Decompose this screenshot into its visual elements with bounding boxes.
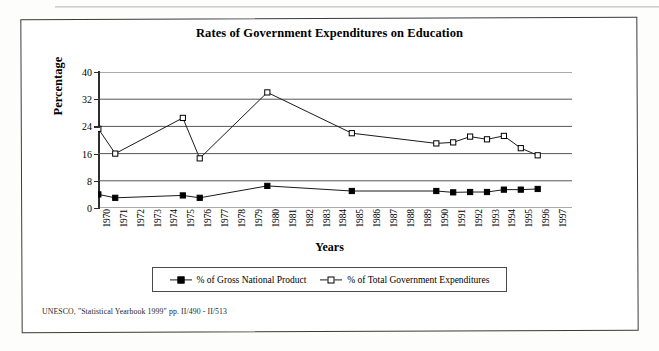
data-point-marker	[451, 190, 456, 195]
data-point-marker	[501, 133, 506, 138]
x-tick-label: 1997	[558, 209, 568, 228]
x-tick-label: 1989	[423, 209, 433, 228]
y-tick-label: 8	[70, 175, 92, 186]
x-tick-label: 1988	[406, 209, 416, 228]
data-point-marker	[434, 188, 439, 193]
data-point-marker	[265, 183, 270, 188]
data-point-marker	[98, 192, 101, 197]
x-tick-label: 1971	[119, 209, 129, 228]
y-tick-label: 0	[70, 203, 92, 214]
data-point-marker	[535, 186, 540, 191]
x-tick-label: 1984	[338, 209, 348, 228]
y-tick-label: 24	[70, 121, 92, 132]
x-tick-label: 1979	[254, 209, 264, 228]
scanned-page: Rates of Government Expenditures on Educ…	[0, 0, 659, 351]
x-tick-label: 1978	[237, 209, 247, 228]
x-tick-label: 1973	[153, 209, 163, 228]
series-line-1	[98, 92, 537, 158]
x-tick-label: 1991	[457, 209, 467, 228]
chart-legend: % of Gross National Product % of Total G…	[152, 267, 507, 292]
x-tick-label: 1970	[102, 209, 112, 228]
data-point-marker	[197, 156, 202, 161]
legend-item-total-gov-exp: % of Total Government Expenditures	[320, 275, 489, 285]
y-tick-mark	[94, 99, 100, 100]
y-tick-mark	[94, 208, 100, 209]
data-point-marker	[518, 187, 523, 192]
y-tick-mark	[94, 126, 100, 127]
data-point-marker	[113, 151, 118, 156]
y-tick-mark	[94, 154, 100, 155]
data-point-marker	[468, 189, 473, 194]
data-point-marker	[349, 188, 354, 193]
data-point-marker	[451, 140, 456, 145]
x-tick-label: 1983	[322, 209, 332, 228]
y-axis-tick-labels: 0816243240	[66, 72, 92, 208]
y-tick-mark	[94, 181, 100, 182]
plot-area	[98, 72, 572, 208]
data-point-marker	[434, 141, 439, 146]
x-tick-label: 1995	[524, 209, 534, 228]
x-tick-label: 1990	[440, 209, 450, 228]
x-tick-label: 1992	[474, 209, 484, 228]
data-point-marker	[468, 134, 473, 139]
legend-item-gnp: % of Gross National Product	[170, 275, 307, 285]
filled-square-marker-icon	[170, 275, 192, 285]
data-point-marker	[197, 195, 202, 200]
chart-canvas	[98, 72, 572, 208]
data-point-marker	[180, 115, 185, 120]
legend-label-total-gov-exp: % of Total Government Expenditures	[347, 275, 489, 285]
x-tick-label: 1985	[355, 209, 365, 228]
x-tick-label: 1986	[372, 209, 382, 228]
y-tick-mark	[94, 72, 100, 73]
y-tick-label: 40	[70, 67, 92, 78]
data-point-marker	[518, 146, 523, 151]
x-tick-label: 1993	[491, 209, 501, 228]
data-point-marker	[180, 193, 185, 198]
x-tick-label: 1975	[186, 209, 196, 228]
x-axis-title: Years	[0, 240, 659, 255]
data-point-marker	[535, 153, 540, 158]
x-tick-label: 1981	[288, 209, 298, 228]
legend-label-gnp: % of Gross National Product	[197, 275, 307, 285]
scan-edge-artifact	[55, 6, 659, 8]
data-point-marker	[484, 189, 489, 194]
chart-title: Rates of Government Expenditures on Educ…	[0, 26, 659, 41]
x-tick-label: 1977	[220, 209, 230, 228]
x-tick-label: 1996	[541, 209, 551, 228]
data-point-marker	[349, 131, 354, 136]
x-tick-label: 1982	[305, 209, 315, 228]
data-point-marker	[113, 195, 118, 200]
x-tick-label: 1987	[389, 209, 399, 228]
x-tick-label: 1974	[169, 209, 179, 228]
x-tick-label: 1972	[136, 209, 146, 228]
hollow-square-marker-icon	[320, 275, 342, 285]
x-tick-label: 1994	[507, 209, 517, 228]
y-axis-title: Percentage	[51, 96, 66, 116]
data-point-marker	[265, 90, 270, 95]
data-point-marker	[501, 187, 506, 192]
y-tick-label: 16	[70, 148, 92, 159]
source-citation: UNESCO, "Statistical Yearbook 1999" pp. …	[42, 307, 227, 316]
y-tick-label: 32	[70, 94, 92, 105]
x-tick-label: 1976	[203, 209, 213, 228]
data-point-marker	[484, 137, 489, 142]
x-tick-label: 1980	[271, 209, 281, 228]
